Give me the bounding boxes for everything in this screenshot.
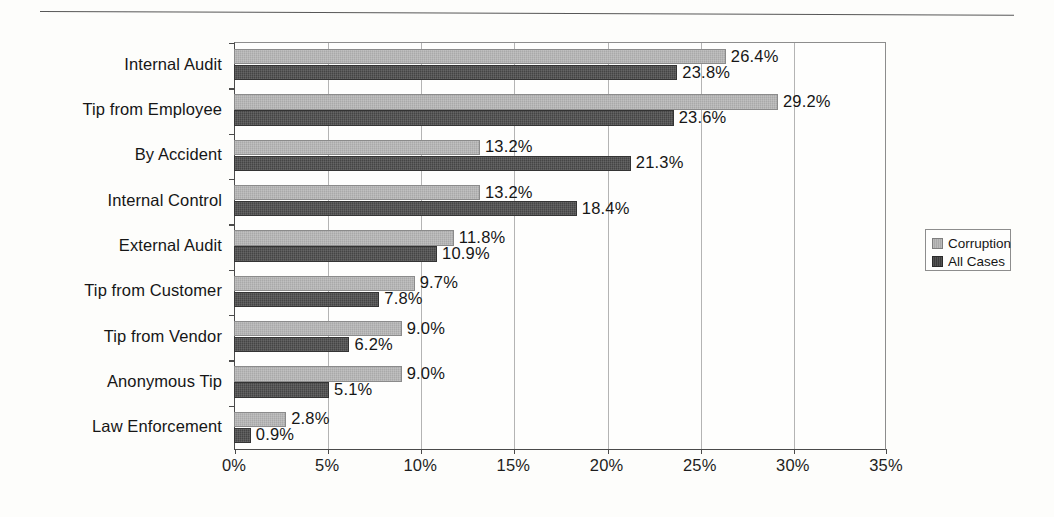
bar-chart: Internal AuditTip from EmployeeBy Accide…	[0, 0, 1054, 517]
x-tick-mark	[421, 449, 422, 454]
bar-all-cases[interactable]	[234, 156, 631, 172]
category-label: Tip from Customer	[0, 281, 222, 300]
bar-corruption[interactable]	[234, 185, 480, 201]
bar-value-label: 7.8%	[384, 289, 422, 308]
x-tick-label: 10%	[403, 456, 437, 475]
bar-corruption[interactable]	[234, 140, 480, 156]
x-tick-mark	[235, 449, 236, 454]
y-tick-mark	[229, 360, 235, 361]
legend-swatch-all-cases	[932, 256, 943, 267]
y-tick-mark	[229, 406, 235, 407]
bar-all-cases[interactable]	[234, 337, 349, 353]
bar-value-label: 10.9%	[442, 244, 490, 263]
bar-value-label: 23.8%	[682, 63, 730, 82]
category-label: By Accident	[0, 145, 222, 164]
bar-value-label: 23.6%	[679, 108, 727, 127]
bar-value-label: 9.0%	[407, 364, 445, 383]
x-tick-label: 30%	[776, 456, 810, 475]
bar-all-cases[interactable]	[234, 382, 329, 398]
bar-value-label: 2.8%	[291, 409, 329, 428]
legend-item-corruption[interactable]: Corruption	[932, 234, 1005, 252]
bar-corruption[interactable]	[234, 230, 454, 246]
category-label: Internal Audit	[0, 55, 222, 74]
x-tick-label: 35%	[869, 456, 903, 475]
bar-value-label: 5.1%	[334, 380, 372, 399]
bar-all-cases[interactable]	[234, 428, 251, 444]
legend-item-all-cases[interactable]: All Cases	[932, 252, 1005, 270]
legend-label-all-cases: All Cases	[948, 254, 1005, 269]
bar-value-label: 0.9%	[256, 425, 294, 444]
bar-value-label: 9.7%	[420, 273, 458, 292]
y-tick-mark	[229, 179, 235, 180]
legend-label-corruption: Corruption	[948, 236, 1011, 251]
category-label: Anonymous Tip	[0, 372, 222, 391]
x-tick-label: 5%	[315, 456, 339, 475]
y-tick-mark	[229, 315, 235, 316]
x-tick-mark	[794, 449, 795, 454]
bar-value-label: 13.2%	[485, 137, 533, 156]
x-tick-label: 0%	[222, 456, 246, 475]
bar-value-label: 6.2%	[354, 335, 392, 354]
bar-value-label: 26.4%	[731, 47, 779, 66]
x-tick-label: 15%	[497, 456, 531, 475]
y-tick-mark	[229, 134, 235, 135]
x-tick-mark	[701, 449, 702, 454]
bar-all-cases[interactable]	[234, 110, 674, 126]
category-label: External Audit	[0, 236, 222, 255]
bar-corruption[interactable]	[234, 49, 726, 65]
y-tick-mark	[229, 224, 235, 225]
x-tick-mark	[886, 449, 887, 454]
x-tick-mark	[328, 449, 329, 454]
bar-value-label: 13.2%	[485, 183, 533, 202]
y-tick-mark	[229, 43, 235, 44]
category-label: Law Enforcement	[0, 417, 222, 436]
bar-value-label: 9.0%	[407, 319, 445, 338]
x-tick-mark	[608, 449, 609, 454]
bar-all-cases[interactable]	[234, 246, 437, 262]
bar-value-label: 29.2%	[783, 92, 831, 111]
bar-all-cases[interactable]	[234, 201, 577, 217]
bar-all-cases[interactable]	[234, 65, 677, 81]
legend-swatch-corruption	[932, 238, 943, 249]
category-label: Tip from Vendor	[0, 327, 222, 346]
x-tick-mark	[514, 449, 515, 454]
x-tick-label: 20%	[590, 456, 624, 475]
category-label: Tip from Employee	[0, 100, 222, 119]
x-tick-label: 25%	[683, 456, 717, 475]
bar-all-cases[interactable]	[234, 292, 379, 308]
category-label: Internal Control	[0, 191, 222, 210]
bar-value-label: 21.3%	[636, 153, 684, 172]
bar-value-label: 18.4%	[582, 199, 630, 218]
y-tick-mark	[229, 270, 235, 271]
bar-corruption[interactable]	[234, 366, 402, 382]
y-tick-mark	[229, 88, 235, 89]
chart-legend: Corruption All Cases	[925, 229, 1011, 271]
